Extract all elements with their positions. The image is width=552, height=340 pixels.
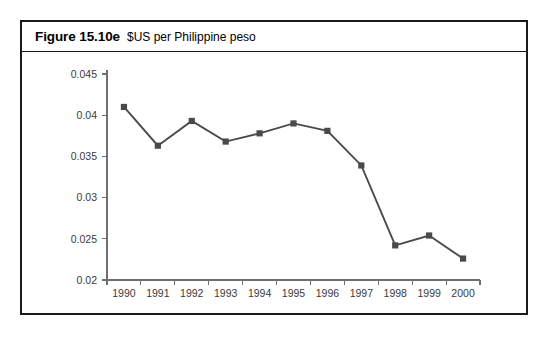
y-tick-label: 0.04	[77, 109, 98, 121]
y-tick-label: 0.02	[77, 274, 98, 286]
data-point-marker	[392, 242, 398, 248]
data-point-marker	[189, 118, 195, 124]
data-point-marker	[358, 162, 364, 168]
y-tick-label: 0.025	[71, 233, 97, 245]
x-tick-label: 1997	[350, 287, 374, 299]
y-tick-label: 0.03	[77, 191, 98, 203]
data-point-marker	[290, 120, 296, 126]
x-tick-label: 1994	[248, 287, 272, 299]
x-tick-label: 1993	[214, 287, 238, 299]
x-tick-label: 1999	[417, 287, 441, 299]
figure-frame: Figure 15.10e $US per Philippine peso 0.…	[20, 20, 528, 315]
x-tick-label: 2000	[451, 287, 475, 299]
data-point-marker	[460, 255, 466, 261]
y-tick-label: 0.045	[71, 68, 97, 80]
data-point-marker	[121, 104, 127, 110]
x-tick-label: 1996	[316, 287, 340, 299]
x-tick-label: 1990	[112, 287, 136, 299]
series-line	[124, 107, 463, 259]
figure-number: Figure 15.10e	[35, 29, 120, 44]
line-chart: 0.020.0250.030.0350.040.045 199019911992…	[22, 52, 526, 313]
data-point-marker	[155, 143, 161, 149]
data-series	[121, 104, 466, 262]
x-tick-label: 1992	[180, 287, 204, 299]
x-axis-ticks: 1990199119921993199419951996199719981999…	[107, 280, 480, 299]
x-tick-label: 1991	[146, 287, 170, 299]
figure-caption: $US per Philippine peso	[127, 30, 256, 44]
data-point-marker	[324, 128, 330, 134]
y-axis-ticks: 0.020.0250.030.0350.040.045	[71, 68, 107, 286]
data-point-marker	[426, 232, 432, 238]
data-point-marker	[256, 130, 262, 136]
figure-header: Figure 15.10e $US per Philippine peso	[22, 22, 526, 52]
x-tick-label: 1998	[384, 287, 408, 299]
chart-axes	[107, 70, 480, 280]
y-tick-label: 0.035	[71, 150, 97, 162]
x-tick-label: 1995	[282, 287, 306, 299]
data-point-marker	[223, 138, 229, 144]
axis-lines	[107, 70, 480, 280]
chart-plot-area: 0.020.0250.030.0350.040.045 199019911992…	[22, 52, 526, 313]
